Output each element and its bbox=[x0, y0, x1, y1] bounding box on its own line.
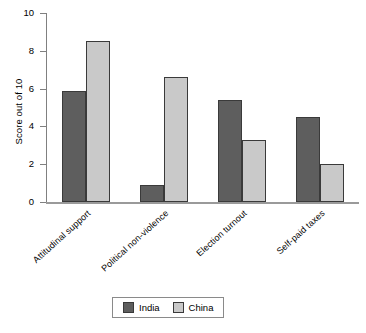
y-axis-title: Score out of 10 bbox=[13, 47, 24, 177]
legend-label-china: China bbox=[189, 302, 214, 313]
y-tick-2 bbox=[40, 164, 46, 165]
plot-area bbox=[47, 13, 359, 202]
bar-india-3 bbox=[296, 117, 320, 202]
x-axis-category-labels: Attitudinal supportPolitical non-violenc… bbox=[0, 208, 366, 288]
x-axis-label-text-3: Self-paid taxes bbox=[275, 208, 327, 256]
bar-india-2 bbox=[218, 100, 242, 202]
bar-china-0 bbox=[86, 41, 110, 202]
bar-china-2 bbox=[242, 140, 266, 202]
x-axis-baseline bbox=[46, 202, 359, 204]
legend-item-china: China bbox=[173, 302, 214, 313]
x-axis-label-text-2: Election turnout bbox=[194, 208, 248, 258]
y-tick-10 bbox=[40, 13, 46, 14]
legend: India China bbox=[112, 297, 224, 318]
china-swatch-icon bbox=[173, 302, 184, 313]
bar-india-0 bbox=[62, 91, 86, 203]
x-axis-label-text-0: Attitudinal support bbox=[31, 208, 93, 265]
y-tick-label-10: 10 bbox=[10, 7, 34, 18]
bar-china-3 bbox=[320, 164, 344, 202]
y-tick-8 bbox=[40, 51, 46, 52]
y-tick-label-2: 2 bbox=[10, 158, 34, 169]
x-axis-label-text-1: Political non-violence bbox=[100, 208, 171, 273]
y-tick-label-4: 4 bbox=[10, 120, 34, 131]
y-tick-4 bbox=[40, 126, 46, 127]
legend-item-india: India bbox=[123, 302, 160, 313]
bar-india-1 bbox=[140, 185, 164, 202]
bar-china-1 bbox=[164, 77, 188, 202]
legend-label-india: India bbox=[139, 302, 160, 313]
y-tick-label-8: 8 bbox=[10, 45, 34, 56]
y-tick-label-6: 6 bbox=[10, 83, 34, 94]
india-swatch-icon bbox=[123, 302, 134, 313]
y-tick-6 bbox=[40, 89, 46, 90]
y-tick-label-0: 0 bbox=[10, 196, 34, 207]
bar-chart: Score out of 10 0246810 Attitudinal supp… bbox=[0, 0, 366, 333]
